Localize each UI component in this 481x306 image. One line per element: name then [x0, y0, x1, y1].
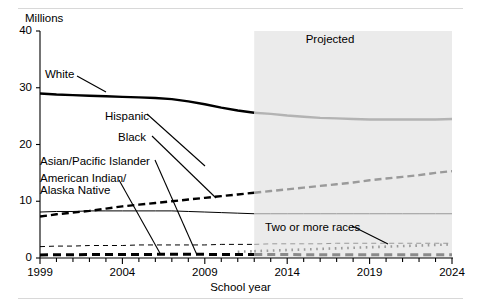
x-tick-label: 2024	[431, 266, 473, 278]
y-tick-label: 0	[10, 251, 32, 263]
aian-label-line2: Alaska Native	[40, 184, 110, 196]
series-line-black	[40, 211, 254, 214]
series-label-hispanic: Hispanic	[105, 110, 149, 122]
series-line-american-indian-alaska-native	[40, 254, 254, 255]
series-label-white: White	[45, 68, 74, 80]
aian-label-line1: American Indian/	[40, 172, 126, 184]
x-tick-label: 2004	[101, 266, 143, 278]
series-line-asian-pacific-islander	[40, 244, 254, 246]
x-tick-label: 2009	[184, 266, 226, 278]
line-chart	[0, 0, 481, 306]
y-tick-label: 30	[10, 81, 32, 93]
projected-annotation: Projected	[306, 33, 355, 45]
series-label-american-indian-alaska-native: American Indian/Alaska Native	[40, 172, 126, 196]
series-label-two-or-more-races: Two or more races	[265, 221, 360, 233]
series-line-two-or-more-races	[238, 251, 254, 252]
y-tick-label: 20	[10, 138, 32, 150]
x-tick-label: 1999	[19, 266, 61, 278]
x-tick-label: 2014	[266, 266, 308, 278]
x-axis-title: School year	[0, 281, 481, 293]
y-tick-label: 10	[10, 194, 32, 206]
y-tick-label: 40	[10, 24, 32, 36]
series-label-asian-pacific-islander: Asian/Pacific Islander	[40, 155, 150, 167]
x-tick-label: 2019	[349, 266, 391, 278]
series-label-black: Black	[118, 131, 146, 143]
